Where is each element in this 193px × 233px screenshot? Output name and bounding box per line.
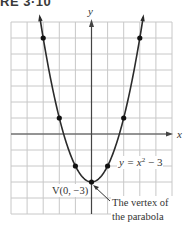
y-axis-label: y: [87, 5, 93, 17]
equation-base: y = x: [118, 156, 142, 168]
data-point: [137, 35, 142, 40]
y-axis-arrow-icon: [89, 19, 94, 27]
parabola-chart: y x y = x2 − 3 V(0, −3) The vertex of th…: [0, 0, 193, 233]
data-point: [121, 115, 126, 120]
data-point: [89, 179, 94, 184]
note-line-1: The vertex of: [112, 197, 169, 208]
x-axis-label: x: [176, 128, 182, 140]
equation-tail: − 3: [145, 156, 163, 168]
note-line-2: the parabola: [112, 211, 164, 222]
data-point: [105, 163, 110, 168]
data-point: [57, 115, 62, 120]
vertex-label: V(0, −3): [52, 185, 89, 197]
equation-label: y = x2 − 3: [118, 156, 163, 168]
data-point: [73, 163, 78, 168]
data-point: [41, 35, 46, 40]
